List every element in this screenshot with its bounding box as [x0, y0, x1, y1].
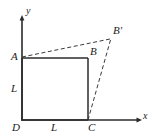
point-label-d: D [12, 122, 20, 133]
dashed-construction-lines [22, 39, 111, 120]
geometry-canvas [0, 0, 155, 140]
point-label-b: B [90, 46, 97, 57]
side-length-label-vertical: L [11, 83, 17, 94]
y-axis-arrow-icon [20, 15, 25, 21]
point-label-b-prime: B' [113, 25, 122, 36]
square-abcd [22, 58, 88, 120]
point-label-a: A [11, 51, 18, 62]
x-axis-label: x [143, 111, 147, 121]
point-label-c: C [88, 122, 95, 133]
x-axis-arrow-icon [137, 118, 143, 123]
geometry-figure: A B C D B' y x L L [0, 0, 155, 140]
y-axis-label: y [26, 6, 30, 16]
side-length-label-horizontal: L [51, 122, 57, 133]
